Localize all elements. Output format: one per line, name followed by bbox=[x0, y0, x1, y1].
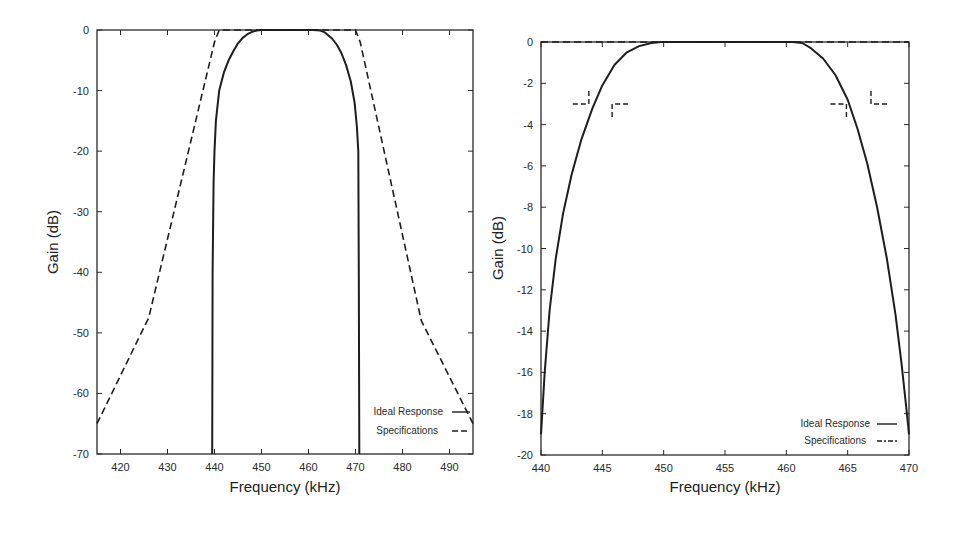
right-spec-markers bbox=[573, 88, 887, 120]
left-x-tick-label: 420 bbox=[111, 461, 129, 473]
left-y-tick-label: -40 bbox=[73, 266, 89, 278]
spec-limit-marker bbox=[573, 88, 589, 104]
left-x-tick-label: 470 bbox=[346, 461, 364, 473]
right-x-tick-label: 455 bbox=[716, 462, 734, 474]
right-x-tick-label: 470 bbox=[900, 462, 918, 474]
spec-limit-marker bbox=[871, 88, 887, 104]
right-series bbox=[541, 42, 909, 434]
right-x-tick-label: 440 bbox=[532, 462, 550, 474]
right-ideal-response-line bbox=[541, 42, 909, 434]
right-x-ticks: 440445450455460465470 bbox=[532, 42, 918, 474]
left-y-tick-label: -10 bbox=[73, 85, 89, 97]
right-legend-ideal-label: Ideal Response bbox=[801, 418, 871, 429]
right-x-tick-label: 450 bbox=[654, 462, 672, 474]
left-legend: Ideal Response Specifications bbox=[374, 406, 471, 436]
right-legend-spec-label: Specifications bbox=[804, 435, 866, 446]
left-ideal-response-line bbox=[212, 30, 359, 454]
left-series bbox=[97, 30, 473, 454]
right-legend: Ideal Response Specifications bbox=[801, 418, 898, 446]
left-x-tick-label: 460 bbox=[299, 461, 317, 473]
right-y-tick-label: -10 bbox=[517, 243, 533, 255]
left-y-tick-label: -60 bbox=[73, 387, 89, 399]
right-x-tick-label: 445 bbox=[593, 462, 611, 474]
left-x-tick-label: 440 bbox=[205, 461, 223, 473]
left-y-tick-label: -50 bbox=[73, 327, 89, 339]
right-y-tick-label: -6 bbox=[523, 160, 533, 172]
right-y-ticks: 0-2-4-6-8-10-12-14-16-18-20 bbox=[517, 36, 909, 461]
right-y-tick-label: -18 bbox=[517, 408, 533, 420]
left-x-tick-label: 480 bbox=[393, 461, 411, 473]
right-y-tick-label: -20 bbox=[517, 449, 533, 461]
right-x-tick-label: 460 bbox=[777, 462, 795, 474]
spec-limit-marker bbox=[612, 104, 628, 120]
left-x-tick-label: 450 bbox=[252, 461, 270, 473]
left-specifications-line bbox=[97, 30, 473, 424]
left-y-tick-label: -20 bbox=[73, 145, 89, 157]
right-plot-frame bbox=[541, 42, 909, 455]
right-chart: 440445450455460465470 0-2-4-6-8-10-12-14… bbox=[489, 36, 918, 495]
right-x-tick-label: 465 bbox=[838, 462, 856, 474]
right-y-tick-label: -14 bbox=[517, 325, 533, 337]
right-y-tick-label: 0 bbox=[527, 36, 533, 48]
left-y-tick-label: 0 bbox=[83, 24, 89, 36]
right-y-tick-label: -2 bbox=[523, 77, 533, 89]
left-y-tick-label: -30 bbox=[73, 206, 89, 218]
left-plot-frame bbox=[97, 30, 473, 454]
right-y-tick-label: -16 bbox=[517, 366, 533, 378]
filter-response-figure: 420430440450460470480490 0-10-20-30-40-5… bbox=[0, 0, 961, 542]
right-x-axis-label: Frequency (kHz) bbox=[670, 478, 781, 495]
left-y-tick-label: -70 bbox=[73, 448, 89, 460]
left-chart: 420430440450460470480490 0-10-20-30-40-5… bbox=[44, 24, 473, 495]
right-y-tick-label: -12 bbox=[517, 284, 533, 296]
left-x-tick-label: 490 bbox=[440, 461, 458, 473]
right-y-tick-label: -4 bbox=[523, 119, 533, 131]
left-x-axis-label: Frequency (kHz) bbox=[230, 478, 341, 495]
left-legend-ideal-label: Ideal Response bbox=[374, 406, 444, 417]
spec-limit-marker bbox=[830, 104, 846, 120]
left-x-tick-label: 430 bbox=[158, 461, 176, 473]
left-y-axis-label: Gain (dB) bbox=[44, 210, 61, 274]
right-y-tick-label: -8 bbox=[523, 201, 533, 213]
left-y-ticks: 0-10-20-30-40-50-60-70 bbox=[73, 24, 473, 460]
right-y-axis-label: Gain (dB) bbox=[489, 216, 506, 280]
left-legend-spec-label: Specifications bbox=[376, 425, 438, 436]
